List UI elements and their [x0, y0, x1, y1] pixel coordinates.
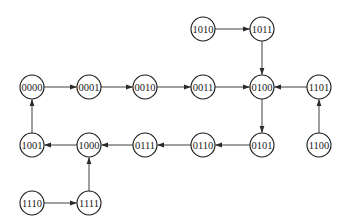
state-node-0100: 0100 [250, 75, 274, 99]
node-label: 0110 [193, 140, 214, 151]
node-label: 1000 [79, 140, 100, 151]
node-label: 0001 [79, 82, 100, 93]
state-node-1011: 1011 [250, 17, 274, 41]
state-node-0111: 0111 [133, 133, 157, 157]
state-node-0011: 0011 [191, 75, 215, 99]
node-label: 0011 [193, 82, 214, 93]
node-label: 0101 [252, 140, 273, 151]
state-node-1010: 1010 [191, 17, 215, 41]
node-label: 1001 [22, 140, 43, 151]
state-transition-diagram: 1010101100000001001000110100110110011000… [0, 0, 345, 224]
node-label: 1101 [309, 82, 330, 93]
edges-layer [32, 29, 319, 203]
node-label: 1110 [22, 198, 42, 209]
node-label: 0010 [135, 82, 156, 93]
node-label: 0111 [135, 140, 155, 151]
state-node-1111: 1111 [77, 191, 101, 215]
state-node-0010: 0010 [133, 75, 157, 99]
state-node-1100: 1100 [307, 133, 331, 157]
node-label: 1010 [193, 24, 214, 35]
node-label: 1011 [252, 24, 273, 35]
nodes-layer: 1010101100000001001000110100110110011000… [20, 17, 331, 215]
state-node-0110: 0110 [191, 133, 215, 157]
node-label: 1111 [79, 198, 99, 209]
node-label: 1100 [309, 140, 330, 151]
state-node-0101: 0101 [250, 133, 274, 157]
state-node-1000: 1000 [77, 133, 101, 157]
state-node-1110: 1110 [20, 191, 44, 215]
state-node-0000: 0000 [20, 75, 44, 99]
state-node-1101: 1101 [307, 75, 331, 99]
state-node-1001: 1001 [20, 133, 44, 157]
node-label: 0100 [252, 82, 273, 93]
node-label: 0000 [22, 82, 43, 93]
state-node-0001: 0001 [77, 75, 101, 99]
